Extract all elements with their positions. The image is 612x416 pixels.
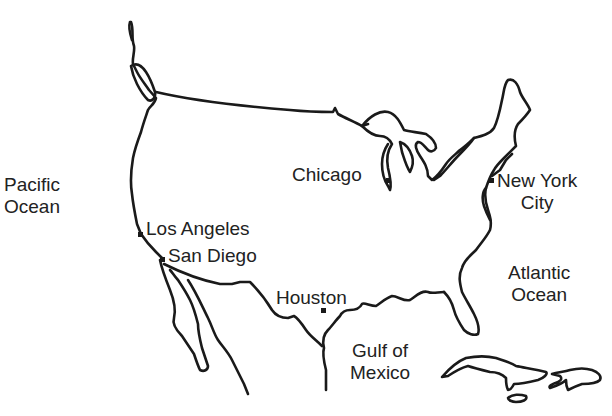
pacific-ocean-label-line1: Pacific [4,174,60,196]
gulf-of-mexico-label: Gulf of Mexico [350,340,410,384]
new-york-city-label-line1: New York [497,170,577,192]
northern-border [156,92,368,126]
gulf-of-mexico-label-line1: Gulf of [350,340,410,362]
pacific-ocean-label: Pacific Ocean [4,174,60,218]
atlantic-ocean-label: Atlantic Ocean [508,262,570,306]
cuba-outline [442,357,547,391]
new-york-city-label-line2: City [497,192,577,214]
pacific-ocean-label-line2: Ocean [4,196,60,218]
san-diego-label: San Diego [168,245,257,267]
los-angeles-marker [138,232,143,237]
great-lakes-outline [362,112,474,190]
jamaica-outline [508,395,526,402]
atlantic-ocean-label-line2: Ocean [508,284,570,306]
new-york-city-marker [489,178,494,183]
san-diego-marker [160,257,165,262]
chicago-label: Chicago [292,164,362,186]
los-angeles-label: Los Angeles [146,218,250,240]
gulf-of-mexico-label-line2: Mexico [350,362,410,384]
chicago-marker [386,178,391,183]
hispaniola-outline [549,369,600,391]
mexico-pacific-coast [188,280,248,394]
atlantic-ocean-label-line1: Atlantic [508,262,570,284]
houston-label: Houston [276,287,347,309]
baja-california-outline [160,260,208,371]
new-york-city-label: New York City [497,170,577,214]
